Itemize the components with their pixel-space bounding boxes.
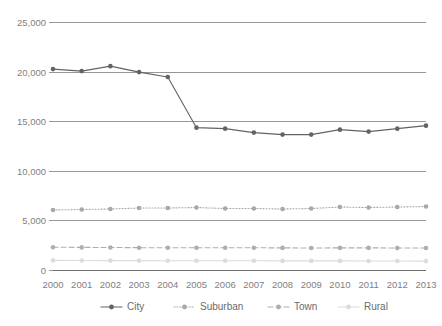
- x-axis-tick-label: 2001: [71, 279, 92, 290]
- series-rural: [51, 258, 429, 263]
- data-point-marker: [366, 129, 371, 134]
- chart-canvas: 05,00010,00015,00020,00025,000 200020012…: [0, 0, 442, 326]
- data-point-marker: [338, 205, 343, 210]
- series-line: [53, 66, 426, 134]
- legend-swatch-marker: [276, 305, 281, 310]
- x-axis-tick-label: 2011: [358, 279, 378, 290]
- x-axis-tick-label: 2006: [215, 279, 236, 290]
- data-point-marker: [338, 127, 343, 132]
- data-point-marker: [108, 64, 113, 69]
- data-point-marker: [223, 126, 228, 131]
- data-point-marker: [194, 245, 199, 250]
- data-point-marker: [280, 132, 285, 137]
- x-axis-tick-label: 2002: [100, 279, 121, 290]
- data-point-marker: [79, 258, 84, 263]
- legend-item-town[interactable]: Town: [268, 301, 317, 312]
- series-group: [51, 64, 429, 264]
- series-suburban: [51, 204, 429, 212]
- data-point-marker: [338, 246, 343, 251]
- x-axis-tick-labels: 2000200120022003200420052006200720082009…: [42, 279, 436, 290]
- data-point-marker: [108, 207, 113, 212]
- data-point-marker: [51, 67, 56, 72]
- series-town: [51, 245, 429, 250]
- data-point-marker: [280, 246, 285, 251]
- data-point-marker: [395, 205, 400, 210]
- legend-item-city[interactable]: City: [101, 301, 144, 312]
- data-point-marker: [79, 245, 84, 250]
- data-point-marker: [366, 246, 371, 251]
- data-point-marker: [108, 258, 113, 263]
- y-axis-tick-labels: 05,00010,00015,00020,00025,000: [17, 17, 53, 276]
- x-axis-tick-label: 2004: [157, 279, 178, 290]
- x-axis-tick-label: 2008: [272, 279, 293, 290]
- data-point-marker: [194, 205, 199, 210]
- data-point-marker: [366, 259, 371, 264]
- data-point-marker: [223, 258, 228, 263]
- y-axis-tick-label: 5,000: [22, 215, 46, 226]
- data-point-marker: [194, 125, 199, 130]
- x-axis-tick-label: 2009: [301, 279, 322, 290]
- data-point-marker: [137, 258, 142, 263]
- legend-item-label: City: [127, 301, 144, 312]
- x-axis-tick-label: 2010: [329, 279, 350, 290]
- y-axis-tick-label: 15,000: [17, 116, 46, 127]
- data-point-marker: [280, 207, 285, 212]
- data-point-marker: [165, 75, 170, 80]
- data-point-marker: [137, 206, 142, 211]
- data-point-marker: [424, 246, 429, 251]
- data-point-marker: [194, 258, 199, 263]
- x-axis-tick-label: 2007: [243, 279, 264, 290]
- x-axis-tick-label: 2013: [415, 279, 436, 290]
- data-point-marker: [137, 245, 142, 250]
- data-point-marker: [424, 259, 429, 264]
- data-point-marker: [309, 259, 314, 264]
- data-point-marker: [338, 259, 343, 264]
- data-point-marker: [309, 132, 314, 137]
- data-point-marker: [223, 206, 228, 211]
- legend-swatch-marker: [346, 305, 351, 310]
- data-point-marker: [395, 126, 400, 131]
- legend-swatch-marker: [182, 305, 187, 310]
- legend-item-label: Town: [294, 301, 317, 312]
- x-axis-tick-label: 2000: [42, 279, 63, 290]
- data-point-marker: [309, 246, 314, 251]
- data-point-marker: [366, 205, 371, 210]
- y-axis-tick-label: 0: [41, 265, 46, 276]
- data-point-marker: [108, 245, 113, 250]
- legend-swatch-marker: [109, 305, 114, 310]
- data-point-marker: [424, 123, 429, 128]
- legend-item-rural[interactable]: Rural: [338, 301, 388, 312]
- data-point-marker: [51, 208, 56, 213]
- y-axis-tick-label: 25,000: [17, 17, 46, 28]
- x-axis-tick-label: 2003: [129, 279, 150, 290]
- data-point-marker: [165, 245, 170, 250]
- data-point-marker: [165, 206, 170, 211]
- data-point-marker: [51, 245, 56, 250]
- data-point-marker: [223, 245, 228, 250]
- data-point-marker: [252, 206, 257, 211]
- data-point-marker: [165, 258, 170, 263]
- series-city: [51, 64, 429, 137]
- y-axis-tick-label: 10,000: [17, 166, 46, 177]
- x-axis-tick-label: 2005: [186, 279, 207, 290]
- chart-legend: CitySuburbanTownRural: [101, 301, 388, 312]
- data-point-marker: [395, 259, 400, 264]
- data-point-marker: [252, 258, 257, 263]
- legend-item-label: Suburban: [200, 301, 243, 312]
- line-chart: 05,00010,00015,00020,00025,000 200020012…: [0, 0, 442, 326]
- data-point-marker: [79, 69, 84, 74]
- legend-item-suburban[interactable]: Suburban: [174, 301, 243, 312]
- data-point-marker: [51, 258, 56, 263]
- x-axis-tick-label: 2012: [387, 279, 408, 290]
- data-point-marker: [137, 70, 142, 75]
- y-axis-tick-label: 20,000: [17, 67, 46, 78]
- data-point-marker: [280, 259, 285, 264]
- data-point-marker: [79, 207, 84, 212]
- data-point-marker: [424, 204, 429, 209]
- legend-item-label: Rural: [364, 301, 388, 312]
- data-point-marker: [252, 245, 257, 250]
- data-point-marker: [252, 130, 257, 135]
- data-point-marker: [309, 206, 314, 211]
- data-point-marker: [395, 246, 400, 251]
- gridline-group: [53, 23, 426, 271]
